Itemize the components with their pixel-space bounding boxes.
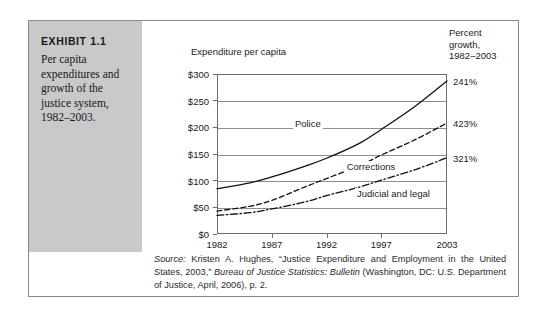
series-line-police [217,81,447,189]
y-axis-tick-mark [213,180,217,181]
right-axis-title-line-2: growth, [449,39,497,51]
y-axis-tick-mark [213,100,217,101]
x-axis-tick-label: 1997 [371,239,392,250]
y-axis-tick-mark [213,234,217,235]
y-axis-tick-label: $0 [198,229,209,240]
x-axis-tick-mark [327,234,328,238]
exhibit-frame: EXHIBIT 1.1 Per capita expenditures and … [28,20,519,297]
series-label-judicial-and-legal: Judicial and legal [355,188,432,199]
series-label-corrections: Corrections [345,161,398,172]
x-axis-tick-label: 1987 [261,239,282,250]
x-axis-tick-label: 2003 [436,239,457,250]
x-axis-tick-label: 1992 [316,239,337,250]
series-label-police: Police [293,118,323,129]
x-axis-tick-mark [272,234,273,238]
right-axis-title: Percent growth, 1982–2003 [449,27,497,62]
y-axis-tick-mark [213,74,217,75]
x-axis-tick-label: 1982 [206,239,227,250]
y-axis-tick-label: $100 [188,175,209,186]
y-axis-title: Expenditure per capita [191,46,286,58]
y-axis-tick-mark [213,127,217,128]
source-publication-title: Bureau of Justice Statistics: Bulletin [214,267,360,277]
y-axis-tick-label: $250 [188,95,209,106]
y-axis-tick-mark [213,154,217,155]
y-axis-tick-label: $300 [188,69,209,80]
right-axis-title-line-1: Percent [449,27,497,39]
right-axis-title-line-3: 1982–2003 [449,50,497,62]
percent-growth-label-police: 241% [453,75,477,86]
y-axis-tick-mark [213,207,217,208]
percent-growth-label-corrections: 423% [453,118,477,129]
y-axis-tick-label: $200 [188,122,209,133]
y-axis-tick-label: $50 [193,202,209,213]
source-prefix: Source: [154,254,186,264]
y-axis-tick-label: $150 [188,149,209,160]
exhibit-label: EXHIBIT 1.1 [41,35,132,47]
exhibit-caption-panel: EXHIBIT 1.1 Per capita expenditures and … [29,21,142,252]
source-note: Source: Kristen A. Hughes, “Justice Expe… [154,253,506,293]
chart-series-svg [217,74,447,234]
percent-growth-label-judicial-and-legal: 321% [453,152,477,163]
exhibit-caption-text: Per capita expenditures and growth of th… [41,52,132,125]
x-axis-tick-mark [381,234,382,238]
